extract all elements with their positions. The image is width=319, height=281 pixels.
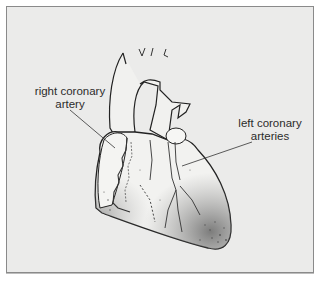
left-atrial-appendage (166, 128, 186, 144)
great-vessels (110, 53, 190, 140)
leader-line-right-coronary (70, 110, 115, 148)
label-line: arteries (225, 130, 315, 143)
label-line: artery (20, 98, 120, 111)
label-line: left coronary (225, 117, 315, 130)
label-right-coronary-artery: right coronary artery (20, 85, 120, 111)
label-left-coronary-arteries: left coronary arteries (225, 117, 315, 143)
label-line: right coronary (20, 85, 120, 98)
vessel-stubs (139, 48, 168, 57)
